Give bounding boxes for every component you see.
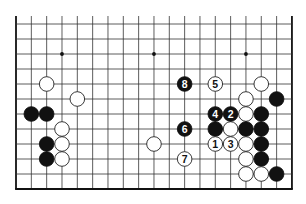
white-stone [254,167,269,182]
numbered-move: 6 [177,122,192,137]
white-stone [55,122,70,137]
move-number-label: 7 [182,153,188,165]
black-stone [254,152,269,167]
numbered-move: 7 [177,152,192,167]
black-stone [24,107,39,122]
white-stone [254,77,269,92]
black-stone [239,122,254,137]
go-board: 12345678 [0,0,306,204]
star-point [152,52,156,56]
move-number-label: 2 [228,108,234,120]
white-stone [55,152,70,167]
white-stone [239,107,254,122]
white-stone [55,137,70,152]
numbered-move: 1 [208,137,223,152]
move-number-label: 6 [182,123,188,135]
white-stone [239,92,254,107]
black-stone [39,107,54,122]
numbered-move: 3 [223,137,238,152]
black-stone [254,137,269,152]
move-number-label: 8 [182,78,188,90]
white-stone [239,137,254,152]
move-number-label: 4 [212,108,218,120]
white-stone [239,167,254,182]
numbered-move: 2 [223,107,238,122]
go-diagram: 12345678 [0,0,306,204]
move-number-label: 5 [212,78,218,90]
black-stone [254,107,269,122]
black-stone [254,122,269,137]
black-stone [39,152,54,167]
black-stone [269,92,284,107]
white-stone [223,122,238,137]
white-stone [70,92,85,107]
move-number-label: 3 [228,138,234,150]
black-stone [39,137,54,152]
black-stone [269,167,284,182]
black-stone [208,122,223,137]
white-stone [39,77,54,92]
white-stone [147,137,162,152]
white-stone [239,152,254,167]
numbered-move: 8 [177,77,192,92]
move-number-label: 1 [212,138,218,150]
numbered-move: 5 [208,77,223,92]
numbered-move: 4 [208,107,223,122]
star-point [60,52,64,56]
star-point [244,52,248,56]
